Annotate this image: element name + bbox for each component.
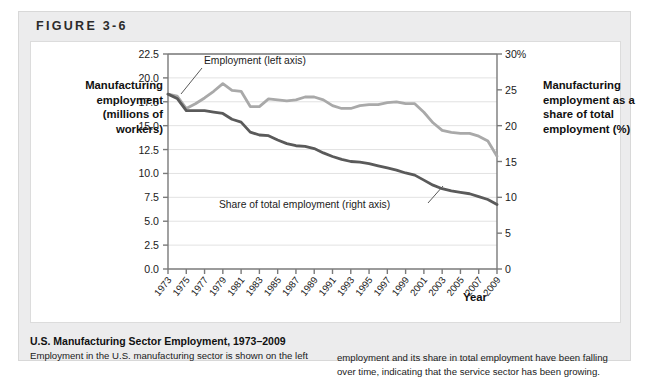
gridlines — [168, 54, 497, 245]
right-axis-ticks: 051015202530% — [497, 48, 527, 275]
x-tick-label: 2001 — [408, 274, 430, 298]
x-axis-title: Year — [463, 290, 487, 305]
caption-right-line-2: over time, indicating that the service s… — [337, 365, 627, 379]
series-line-1 — [168, 84, 497, 157]
annotation-leader-1 — [181, 68, 202, 94]
x-tick-label: 1991 — [316, 274, 338, 298]
right-tick-label: 0 — [505, 263, 511, 275]
right-tick-label: 10 — [505, 191, 517, 203]
x-tick-label: 1979 — [207, 274, 229, 298]
axis-spines — [168, 54, 497, 269]
caption-right-column: employment and its share in total employ… — [337, 351, 627, 379]
caption-block: U.S. Manufacturing Sector Employment, 19… — [30, 334, 626, 380]
left-tick-label: 2.5 — [144, 239, 159, 251]
right-tick-label: 20 — [505, 120, 517, 132]
caption-left-column: U.S. Manufacturing Sector Employment, 19… — [30, 334, 330, 363]
right-tick-label: 5 — [505, 227, 511, 239]
x-axis-ticks: 1973197519771979198119831985198719891991… — [152, 269, 503, 298]
figure-card: FIGURE 3-6 Manufacturing employment (mil… — [18, 11, 631, 361]
x-tick-label: 1983 — [243, 274, 265, 298]
x-tick-label: 1999 — [389, 274, 411, 298]
x-tick-label: 1985 — [261, 274, 283, 298]
annotation-leader-2 — [428, 186, 443, 203]
figure-number-label: FIGURE 3-6 — [36, 19, 128, 33]
caption-title: U.S. Manufacturing Sector Employment, 19… — [30, 334, 330, 349]
right-tick-label: 15 — [505, 156, 517, 168]
left-tick-label: 10.0 — [138, 167, 159, 179]
right-axis-title: Manufacturing employment as a share of t… — [543, 78, 649, 136]
annotation-employment: Employment (left axis) — [204, 55, 306, 66]
left-tick-label: 7.5 — [144, 191, 159, 203]
chart-panel: Manufacturing employment (millions of wo… — [30, 41, 621, 323]
x-tick-label: 1995 — [353, 274, 375, 298]
left-tick-label: 22.5 — [138, 48, 159, 60]
x-tick-label: 1975 — [170, 274, 192, 298]
x-tick-label: 1997 — [371, 274, 393, 298]
x-tick-label: 1973 — [152, 274, 174, 298]
x-tick-label: 1993 — [335, 274, 357, 298]
caption-right-line-1: employment and its share in total employ… — [337, 351, 627, 365]
left-tick-label: 0.0 — [144, 263, 159, 275]
left-axis-title: Manufacturing employment (millions of wo… — [63, 78, 163, 136]
x-tick-label: 2003 — [426, 274, 448, 298]
x-tick-label: 1989 — [298, 274, 320, 298]
annotation-share: Share of total employment (right axis) — [219, 199, 390, 210]
figure-label-bar: FIGURE 3-6 — [19, 12, 632, 40]
left-tick-label: 12.5 — [138, 144, 159, 156]
caption-left-line-1: Employment in the U.S. manufacturing sec… — [30, 349, 330, 363]
left-tick-label: 5.0 — [144, 215, 159, 227]
x-tick-label: 1987 — [280, 274, 302, 298]
x-tick-label: 1977 — [188, 274, 210, 298]
x-tick-label: 1981 — [225, 274, 247, 298]
right-tick-label: 30% — [505, 48, 527, 60]
right-tick-label: 25 — [505, 84, 517, 96]
